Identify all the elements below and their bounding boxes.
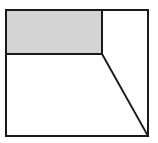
diagonal-line	[102, 54, 148, 136]
shaded-rectangle	[6, 10, 102, 54]
geometric-diagram	[0, 0, 158, 143]
